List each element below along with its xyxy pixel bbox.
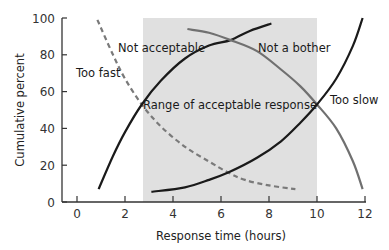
response-time-chart: 020406080100 024681012 Response time (ho… — [0, 0, 389, 250]
y-axis: 020406080100 — [32, 12, 67, 210]
y-axis-title: Cumulative percent — [13, 53, 27, 167]
x-tick-label: 4 — [169, 207, 177, 221]
y-tick-label: 100 — [32, 12, 55, 26]
label-too-slow: Too slow — [329, 93, 378, 107]
label-not-acceptable: Not acceptable — [118, 41, 205, 55]
x-tick-label: 6 — [217, 207, 225, 221]
label-not-a-bother: Not a bother — [258, 41, 331, 55]
x-tick-label: 0 — [73, 207, 81, 221]
x-tick-label: 2 — [121, 207, 129, 221]
y-tick-label: 40 — [40, 122, 55, 136]
y-tick-label: 0 — [47, 196, 55, 210]
x-tick-label: 8 — [265, 207, 273, 221]
y-tick-label: 80 — [40, 48, 55, 62]
label-range-acceptable: Range of acceptable response — [143, 98, 317, 112]
x-tick-label: 10 — [309, 207, 324, 221]
y-tick-label: 20 — [40, 159, 55, 173]
x-axis-title: Response time (hours) — [156, 229, 286, 243]
y-tick-label: 60 — [40, 85, 55, 99]
x-tick-label: 12 — [357, 207, 372, 221]
label-too-fast: Too fast — [75, 66, 121, 80]
